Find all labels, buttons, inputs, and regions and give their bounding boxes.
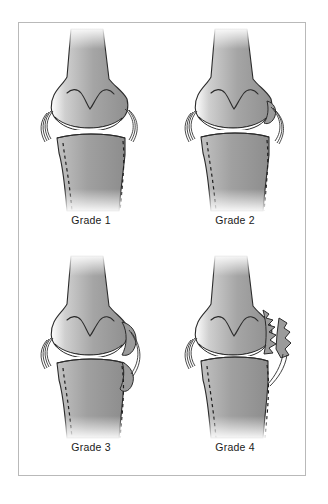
figure-frame: Grade 1 bbox=[18, 22, 306, 476]
panel-grade-1: Grade 1 bbox=[19, 23, 163, 250]
collateral-ligament-lateral bbox=[125, 109, 137, 142]
grade-label: Grade 1 bbox=[71, 214, 110, 226]
grade-label: Grade 4 bbox=[215, 441, 254, 453]
knee-diagram-grade-3 bbox=[19, 254, 163, 440]
collateral-ligament bbox=[185, 338, 197, 369]
panel-grade-3: Grade 3 bbox=[19, 250, 163, 477]
grade-label: Grade 3 bbox=[71, 441, 110, 453]
osteoarthritis-grading-figure: Grade 1 bbox=[0, 0, 328, 504]
osteophyte-spur-body bbox=[276, 318, 291, 358]
grade-label: Grade 2 bbox=[215, 214, 254, 226]
collateral-ligament bbox=[41, 111, 53, 142]
knee-diagram-grade-2 bbox=[163, 27, 307, 213]
panel-grid: Grade 1 bbox=[19, 23, 307, 477]
knee-diagram-grade-4 bbox=[163, 254, 307, 440]
collateral-ligament bbox=[185, 111, 197, 142]
collateral-ligament bbox=[41, 338, 53, 369]
panel-grade-2: Grade 2 bbox=[163, 23, 307, 250]
panel-grade-4: Grade 4 bbox=[163, 250, 307, 477]
collateral-ligament-lateral bbox=[268, 354, 287, 386]
knee-diagram-grade-1 bbox=[19, 27, 163, 213]
